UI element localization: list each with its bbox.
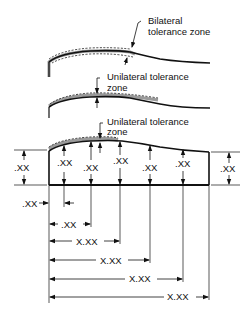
hdim-5-label: X.XX xyxy=(167,291,189,302)
unilateral-label-1-line2: zone xyxy=(107,82,128,93)
tolerance-diagram: Bilateral tolerance zone Unilateral tole… xyxy=(0,0,250,322)
hdim-1-label: .XX xyxy=(61,219,77,230)
unilateral-label-1-line1: Unilateral tolerance xyxy=(107,71,189,82)
dimensioned-profile: Unilateral tolerance zone .XX .XX .XX .X… xyxy=(14,116,240,185)
bilateral-label-line1: Bilateral xyxy=(148,15,182,26)
hdim-4-label: X.XX xyxy=(129,273,151,284)
bilateral-profile: Bilateral tolerance zone xyxy=(49,15,210,77)
station-height-5: .XX xyxy=(175,158,191,169)
hdim-3-label: X.XX xyxy=(100,255,122,266)
station-height-1: .XX xyxy=(57,157,73,168)
unilateral-label-2-line2: zone xyxy=(107,126,128,137)
bilateral-label-line2: tolerance zone xyxy=(148,26,210,37)
offset-label: .XX xyxy=(22,198,38,209)
height-right-label: .XX xyxy=(220,163,236,174)
station-height-4: .XX xyxy=(142,162,158,173)
station-height-3: .XX xyxy=(113,155,129,166)
horizontal-dimensions: .XX .XX X.XX X.XX X.XX X.XX xyxy=(22,198,208,302)
unilateral-profile-1: Unilateral tolerance zone xyxy=(49,71,210,118)
height-left-label: .XX xyxy=(14,162,30,173)
hdim-2-label: X.XX xyxy=(76,236,98,247)
station-height-2: .XX xyxy=(83,162,99,173)
